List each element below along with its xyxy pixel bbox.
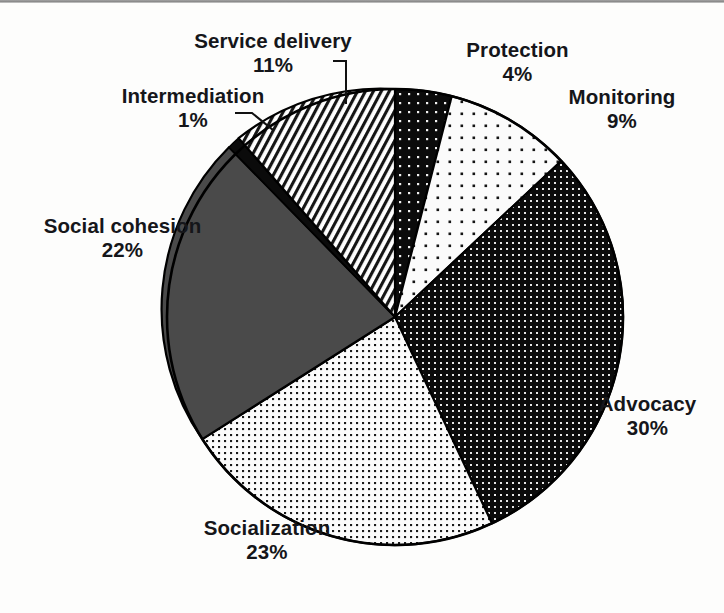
pie-label-socialization: Socialization 23% [152,516,382,564]
pie-label-socialization-name: Socialization [204,516,331,539]
pie-label-protection-name: Protection [466,38,568,61]
pie-label-protection-value: 4% [430,62,605,86]
pie-label-monitoring-name: Monitoring [569,85,676,108]
pie-label-protection: Protection 4% [430,38,605,86]
pie-label-monitoring-value: 9% [522,109,722,133]
pie-label-social-cohesion: Social cohesion 22% [5,214,240,262]
pie-label-socialization-value: 23% [152,540,382,564]
pie-slices [162,89,623,545]
pie-label-advocacy: Advocacy 30% [575,392,720,440]
pie-label-service-delivery-value: 11% [143,53,403,77]
pie-label-monitoring: Monitoring 9% [522,85,722,133]
pie-label-intermediation-value: 1% [68,108,318,132]
pie-label-service-delivery: Service delivery 11% [143,29,403,77]
pie-label-social-cohesion-value: 22% [5,238,240,262]
pie-label-advocacy-value: 30% [575,416,720,440]
pie-label-service-delivery-name: Service delivery [194,29,352,52]
pie-label-social-cohesion-name: Social cohesion [44,214,202,237]
pie-label-intermediation-name: Intermediation [122,84,265,107]
pie-label-advocacy-name: Advocacy [599,392,697,415]
pie-label-intermediation: Intermediation 1% [68,84,318,132]
